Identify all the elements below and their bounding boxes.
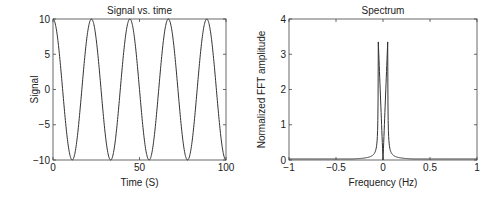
y-axis-label: Normalized FFT amplitude xyxy=(256,30,267,148)
spectrum-line xyxy=(289,42,477,160)
x-tick-label: 0 xyxy=(380,162,386,173)
signal-plot: Signal vs. time Time (S) Signal 05010010… xyxy=(29,5,235,188)
chart-title: Spectrum xyxy=(362,5,405,16)
x-tick-label: −0.5 xyxy=(326,162,346,173)
y-tick-label: −5 xyxy=(39,119,51,130)
x-axis-label: Frequency (Hz) xyxy=(349,177,418,188)
x-tick-label: 50 xyxy=(134,162,146,173)
y-tick-label: 2 xyxy=(280,84,286,95)
y-axis-label: Signal xyxy=(29,76,40,104)
y-tick-label: 10 xyxy=(39,14,51,25)
y-tick-label: 0 xyxy=(280,155,286,166)
figure: Signal vs. time Time (S) Signal 05010010… xyxy=(0,0,497,201)
y-tick-label: 5 xyxy=(44,49,50,60)
spectrum-plot: Spectrum Frequency (Hz) Normalized FFT a… xyxy=(256,5,480,188)
y-tick-label: 0 xyxy=(44,84,50,95)
x-tick-label: 0 xyxy=(50,162,56,173)
x-tick-label: 100 xyxy=(218,162,235,173)
y-tick-label: 3 xyxy=(280,49,286,60)
x-axis-label: Time (S) xyxy=(121,177,159,188)
y-tick-label: −10 xyxy=(33,155,50,166)
signal-line xyxy=(53,19,226,160)
y-tick-label: 4 xyxy=(280,14,286,25)
chart-title: Signal vs. time xyxy=(107,5,172,16)
x-tick-label: 1 xyxy=(474,162,480,173)
x-tick-label: 0.5 xyxy=(423,162,437,173)
y-tick-label: 1 xyxy=(280,119,286,130)
